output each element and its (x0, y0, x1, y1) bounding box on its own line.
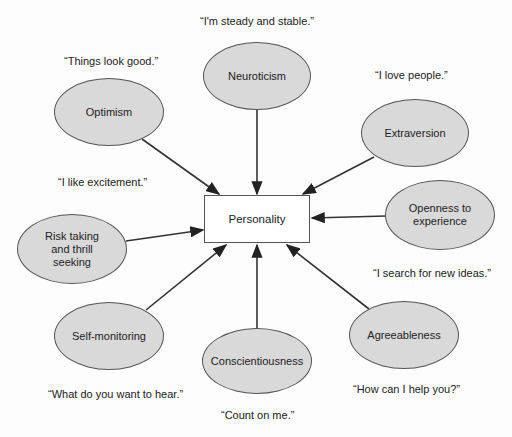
extraversion-label: Extraversion (384, 127, 445, 140)
arrow-openness (312, 216, 386, 218)
optimism-node: Optimism (54, 78, 164, 146)
openness-label: Openness to experience (409, 202, 471, 228)
arrow-optimism (142, 139, 219, 194)
agreeableness-label: Agreeableness (367, 329, 440, 342)
openness-quote: “I search for new ideas.” (373, 267, 491, 279)
self-monitoring-quote: “What do you want to hear.” (48, 388, 183, 400)
self-monitoring-node: Self-monitoring (54, 302, 164, 370)
neuroticism-quote: “I'm steady and stable.” (200, 15, 314, 27)
conscientiousness-quote: “Count on me.” (221, 409, 294, 421)
personality-diagram: Personality Neuroticism “I'm steady and … (0, 0, 512, 437)
extraversion-quote: “I love people.” (375, 69, 448, 81)
risk-taking-label: Risk taking and thrill seeking (45, 230, 99, 269)
optimism-quote: “Things look good.” (64, 55, 158, 67)
openness-node: Openness to experience (385, 180, 495, 250)
optimism-label: Optimism (86, 106, 132, 119)
personality-node: Personality (204, 195, 310, 243)
extraversion-node: Extraversion (361, 99, 469, 167)
conscientiousness-label: Conscientiousness (211, 355, 303, 368)
neuroticism-label: Neuroticism (228, 70, 286, 83)
arrow-self-monitoring (146, 245, 226, 310)
neuroticism-node: Neuroticism (203, 42, 311, 110)
risk-taking-quote: “I like excitement.” (58, 176, 147, 188)
arrow-extraversion (303, 157, 374, 194)
self-monitoring-label: Self-monitoring (72, 330, 146, 343)
risk-taking-node: Risk taking and thrill seeking (17, 214, 127, 284)
agreeableness-node: Agreeableness (349, 301, 459, 369)
arrow-risk-taking (126, 230, 203, 241)
conscientiousness-node: Conscientiousness (202, 328, 312, 394)
agreeableness-quote: “How can I help you?” (353, 383, 460, 395)
arrow-agreeableness (287, 245, 369, 309)
personality-label: Personality (229, 213, 286, 225)
